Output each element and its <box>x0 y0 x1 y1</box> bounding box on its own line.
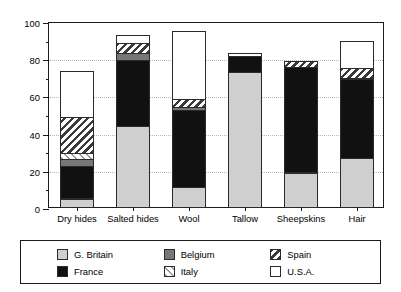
gridline <box>49 135 383 136</box>
y-axis-tick-label: 100 <box>24 18 40 29</box>
bar-segment[interactable] <box>116 60 150 127</box>
x-axis-tick-label: Dry hides <box>57 213 97 224</box>
bar-segment[interactable] <box>340 158 374 208</box>
bar-segment[interactable] <box>60 117 94 154</box>
y-axis-minor-tick <box>46 116 50 117</box>
chart-legend: G. BritainBelgiumSpainFranceItalyU.S.A. <box>20 240 381 284</box>
gridline <box>49 97 383 98</box>
legend-item[interactable]: Spain <box>270 249 377 260</box>
x-axis-tick-label: Salted hides <box>107 213 159 224</box>
y-axis-tick-label: 40 <box>30 129 40 140</box>
bar-segment[interactable] <box>228 56 262 73</box>
legend-swatch-icon <box>164 249 175 260</box>
legend-item[interactable]: Belgium <box>164 249 271 260</box>
bar-segment[interactable] <box>60 71 94 118</box>
x-axis-tick <box>301 207 302 211</box>
y-axis-tick <box>43 97 49 98</box>
legend-label: France <box>74 266 103 277</box>
legend-item[interactable]: G. Britain <box>57 249 164 260</box>
bar-segment[interactable] <box>172 187 206 207</box>
bar-stack[interactable] <box>172 31 206 207</box>
y-axis-tick <box>43 172 49 173</box>
y-axis-minor-tick <box>46 42 50 43</box>
legend-label: Italy <box>181 266 198 277</box>
x-axis-tick <box>189 207 190 211</box>
bar-segment[interactable] <box>228 72 262 208</box>
y-axis-minor-tick <box>46 153 50 154</box>
x-axis-tick-label: Hair <box>348 213 365 224</box>
y-axis-tick <box>43 23 49 24</box>
bar-stack[interactable] <box>284 61 318 207</box>
x-axis-tick-label: Sheepskins <box>277 213 325 224</box>
legend-label: Belgium <box>181 249 215 260</box>
legend-item[interactable]: U.S.A. <box>270 266 377 277</box>
bar-stack[interactable] <box>228 53 262 207</box>
x-axis-tick <box>245 207 246 211</box>
bar-segment[interactable] <box>116 126 150 208</box>
x-axis-tick <box>133 207 134 211</box>
bar-segment[interactable] <box>284 173 318 208</box>
y-axis-tick <box>43 209 49 210</box>
y-axis-tick-label: 0 <box>35 204 40 215</box>
x-axis-tick-label: Tallow <box>232 213 258 224</box>
y-axis-tick <box>43 135 49 136</box>
y-axis-tick-label: 80 <box>30 55 40 66</box>
bar-stack[interactable] <box>340 41 374 207</box>
bar-segment[interactable] <box>172 110 206 188</box>
x-axis-tick <box>77 207 78 211</box>
legend-label: Spain <box>287 249 311 260</box>
bar-segment[interactable] <box>340 41 374 69</box>
legend-swatch-icon <box>57 249 68 260</box>
gridline <box>49 172 383 173</box>
x-axis-tick <box>357 207 358 211</box>
y-axis-tick <box>43 60 49 61</box>
bar-stack[interactable] <box>116 35 150 207</box>
y-axis-tick-label: 20 <box>30 166 40 177</box>
bar-segment[interactable] <box>60 166 94 199</box>
legend-swatch-icon <box>270 266 281 277</box>
bar-segment[interactable] <box>172 31 206 100</box>
gridline <box>49 60 383 61</box>
bar-stack[interactable] <box>60 71 94 207</box>
stacked-bar-chart-figure: percentage of total item value 020406080… <box>0 0 401 292</box>
legend-swatch-icon <box>164 266 175 277</box>
legend-label: G. Britain <box>74 249 113 260</box>
y-axis-minor-tick <box>46 190 50 191</box>
legend-swatch-icon <box>57 266 68 277</box>
plot-area: 020406080100Dry hidesSalted hidesWoolTal… <box>48 22 384 208</box>
x-axis-tick-label: Wool <box>178 213 199 224</box>
y-axis-tick-label: 60 <box>30 92 40 103</box>
legend-label: U.S.A. <box>287 266 314 277</box>
bar-segment[interactable] <box>284 67 318 173</box>
legend-item[interactable]: France <box>57 266 164 277</box>
y-axis-minor-tick <box>46 79 50 80</box>
legend-item[interactable]: Italy <box>164 266 271 277</box>
legend-swatch-icon <box>270 249 281 260</box>
bar-segment[interactable] <box>340 79 374 159</box>
